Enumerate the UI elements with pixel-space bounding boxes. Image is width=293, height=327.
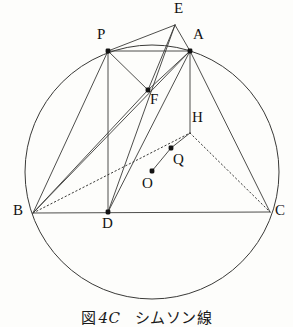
- point-dot-p: [106, 49, 111, 54]
- point-label-c: C: [275, 203, 285, 218]
- segment-B-F: [33, 90, 148, 213]
- segment-Q-H: [171, 133, 190, 148]
- point-label-h: H: [192, 110, 203, 125]
- point-label-p: P: [97, 27, 105, 42]
- segment-P-E: [108, 25, 175, 51]
- point-label-e: E: [174, 1, 183, 16]
- caption-text: シムソン線: [135, 309, 213, 327]
- point-label-b: B: [13, 203, 23, 218]
- point-label-q: Q: [173, 152, 184, 167]
- point-dot-d: [106, 210, 111, 215]
- point-dot-o: [150, 169, 155, 174]
- figure-caption: 図4Cシムソン線: [0, 306, 293, 327]
- geometry-canvas: [0, 0, 293, 327]
- caption-prefix: 図: [81, 309, 97, 327]
- point-dot-q: [169, 146, 174, 151]
- segment-H-C: [190, 133, 270, 212]
- point-label-d: D: [102, 216, 113, 231]
- point-label-a: A: [193, 27, 204, 42]
- segment-B-C: [33, 212, 270, 213]
- segment-A-B: [33, 51, 190, 213]
- point-label-o: O: [142, 176, 153, 191]
- segment-A-C: [190, 51, 270, 212]
- caption-number: 4C: [98, 309, 120, 327]
- segment-A-F: [148, 51, 190, 90]
- point-label-f: F: [150, 92, 158, 107]
- point-dot-a: [188, 49, 193, 54]
- segment-P-F: [108, 51, 148, 90]
- segment-P-B: [33, 51, 108, 213]
- figure-root: PAEFHQOBDC 図4Cシムソン線: [0, 0, 293, 327]
